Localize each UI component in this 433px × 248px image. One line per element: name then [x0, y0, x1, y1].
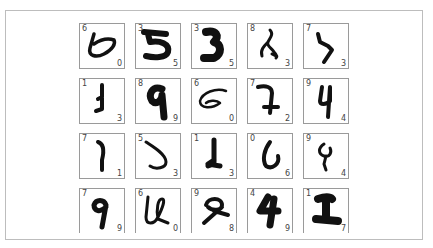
- digit-stroke: [204, 199, 228, 223]
- digit-tile: 83: [247, 23, 293, 69]
- predicted-label: 4: [341, 114, 346, 123]
- digit-stroke: [264, 142, 278, 167]
- figure-bottom-clip: [6, 233, 423, 240]
- true-label: 8: [250, 24, 255, 33]
- true-label: 7: [306, 24, 311, 33]
- digit-tile: 94: [303, 78, 349, 124]
- true-label: 1: [82, 79, 87, 88]
- true-label: 6: [194, 79, 199, 88]
- predicted-label: 3: [117, 114, 122, 123]
- digit-tile: 13: [191, 133, 237, 179]
- digit-tile: 13: [79, 78, 125, 124]
- predicted-label: 3: [285, 59, 290, 68]
- predicted-label: 9: [285, 224, 290, 233]
- digit-stroke: [146, 142, 166, 168]
- digit-stroke: [98, 142, 103, 170]
- digit-tile: 49: [247, 188, 293, 234]
- true-label: 7: [82, 189, 87, 198]
- digit-tile: 71: [79, 133, 125, 179]
- digit-stroke: [90, 34, 115, 56]
- predicted-label: 3: [229, 169, 234, 178]
- digit-tile: 72: [247, 78, 293, 124]
- digit-stroke: [146, 197, 168, 223]
- digit-tile: 60: [135, 188, 181, 234]
- digit-stroke: [320, 87, 330, 117]
- digit-stroke: [144, 32, 168, 57]
- true-label: 7: [82, 134, 87, 143]
- predicted-label: 9: [117, 224, 122, 233]
- predicted-label: 9: [173, 114, 178, 123]
- true-label: 1: [194, 134, 199, 143]
- digit-tile: 60: [79, 23, 125, 69]
- predicted-label: 5: [229, 59, 234, 68]
- predicted-label: 8: [229, 224, 234, 233]
- true-label: 5: [138, 134, 143, 143]
- digit-tile: 06: [247, 133, 293, 179]
- predicted-label: 3: [341, 59, 346, 68]
- digit-stroke: [208, 140, 220, 166]
- digit-tile: 35: [191, 23, 237, 69]
- digit-stroke: [260, 197, 278, 225]
- digit-tile: 17: [303, 188, 349, 234]
- digit-tile: 60: [191, 78, 237, 124]
- predicted-label: 0: [173, 224, 178, 233]
- digit-stroke: [204, 32, 220, 58]
- predicted-label: 0: [117, 59, 122, 68]
- true-label: 9: [194, 189, 199, 198]
- true-label: 3: [194, 24, 199, 33]
- digit-stroke: [316, 198, 338, 222]
- digit-tile: 89: [135, 78, 181, 124]
- true-label: 0: [250, 134, 255, 143]
- digit-stroke: [150, 88, 164, 117]
- digit-tile: 35: [135, 23, 181, 69]
- predicted-label: 5: [173, 59, 178, 68]
- misclassified-digits-figure: 6035358373138960729471531306947960984917: [5, 10, 423, 240]
- digit-tile: 73: [303, 23, 349, 69]
- predicted-label: 6: [285, 169, 290, 178]
- predicted-label: 0: [229, 114, 234, 123]
- predicted-label: 1: [117, 169, 122, 178]
- digit-stroke: [96, 85, 102, 111]
- digit-stroke: [318, 34, 332, 62]
- true-label: 9: [306, 134, 311, 143]
- true-label: 3: [138, 24, 143, 33]
- predicted-label: 7: [341, 224, 346, 233]
- predicted-label: 4: [341, 169, 346, 178]
- true-label: 4: [250, 189, 255, 198]
- true-label: 7: [250, 79, 255, 88]
- digit-stroke: [94, 201, 106, 228]
- true-label: 6: [138, 189, 143, 198]
- digit-stroke: [200, 90, 226, 108]
- digit-tile: 53: [135, 133, 181, 179]
- digit-stroke: [258, 86, 278, 113]
- true-label: 1: [306, 189, 311, 198]
- digit-stroke: [261, 30, 276, 58]
- digit-tile: 98: [191, 188, 237, 234]
- predicted-label: 3: [173, 169, 178, 178]
- digit-tile: 94: [303, 133, 349, 179]
- true-label: 8: [138, 79, 143, 88]
- true-label: 9: [306, 79, 311, 88]
- digit-tile: 79: [79, 188, 125, 234]
- digit-stroke: [320, 144, 331, 170]
- predicted-label: 2: [285, 114, 290, 123]
- true-label: 6: [82, 24, 87, 33]
